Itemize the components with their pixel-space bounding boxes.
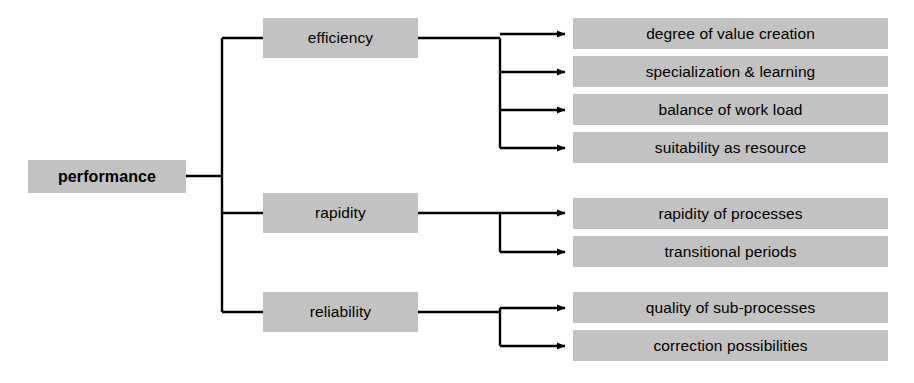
node-leaf-label: suitability as resource [655, 139, 806, 156]
node-rapidity-label: rapidity [315, 204, 366, 221]
node-leaf-label: rapidity of processes [658, 205, 802, 222]
performance-tree-diagram: performance efficiency rapidity reliabil… [0, 0, 914, 383]
node-specialization-and-learning[interactable]: specialization & learning [573, 56, 888, 87]
node-leaf-label: correction possibilities [653, 337, 807, 354]
node-rapidity[interactable]: rapidity [263, 193, 418, 233]
node-leaf-label: degree of value creation [646, 25, 815, 42]
node-reliability-label: reliability [310, 303, 371, 320]
node-transitional-periods[interactable]: transitional periods [573, 236, 888, 267]
node-quality-of-sub-processes[interactable]: quality of sub-processes [573, 292, 888, 323]
node-suitability-as-resource[interactable]: suitability as resource [573, 132, 888, 163]
node-leaf-label: transitional periods [664, 243, 796, 260]
node-leaf-label: quality of sub-processes [646, 299, 816, 316]
node-correction-possibilities[interactable]: correction possibilities [573, 330, 888, 361]
node-degree-of-value-creation[interactable]: degree of value creation [573, 18, 888, 49]
node-leaf-label: specialization & learning [646, 63, 816, 80]
node-performance-label: performance [58, 168, 156, 186]
node-efficiency[interactable]: efficiency [263, 18, 418, 58]
node-leaf-label: balance of work load [658, 101, 802, 118]
node-efficiency-label: efficiency [308, 29, 373, 46]
node-performance[interactable]: performance [28, 160, 186, 193]
node-reliability[interactable]: reliability [263, 292, 418, 332]
node-balance-of-work-load[interactable]: balance of work load [573, 94, 888, 125]
node-rapidity-of-processes[interactable]: rapidity of processes [573, 198, 888, 229]
